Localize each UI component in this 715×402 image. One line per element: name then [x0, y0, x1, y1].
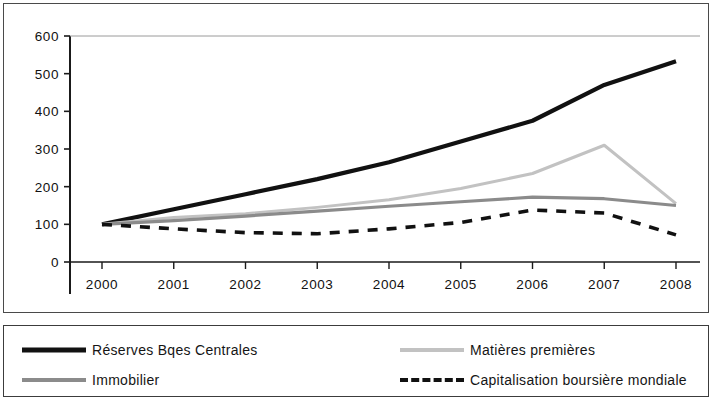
- y-tick-label: 200: [35, 180, 59, 195]
- y-tick-label: 500: [35, 67, 59, 82]
- x-tick-label: 2008: [660, 277, 692, 292]
- y-tick-label: 0: [51, 255, 59, 270]
- legend-swatch-matieres-premieres: [400, 343, 464, 357]
- legend-label-capitalisation-boursiere-mondiale: Capitalisation boursière mondiale: [470, 372, 687, 388]
- x-tick-label: 2003: [301, 277, 333, 292]
- x-tick-label: 2004: [373, 277, 405, 292]
- legend-swatch-reserves-bqes-centrales: [22, 343, 86, 357]
- legend-item-reserves-bqes-centrales: Réserves Bqes Centrales: [4, 342, 382, 358]
- chart-legend: Réserves Bqes Centrales Matières premièr…: [3, 325, 709, 397]
- line-chart: 0100200300400500600 20002001200220032004…: [0, 0, 715, 320]
- legend-item-matieres-premieres: Matières premières: [382, 342, 708, 358]
- legend-label-immobilier: Immobilier: [92, 372, 160, 388]
- legend-row-1: Réserves Bqes Centrales Matières premièr…: [4, 335, 708, 365]
- chart-series-lines: [102, 61, 676, 235]
- x-tick-label: 2006: [516, 277, 548, 292]
- legend-swatch-immobilier: [22, 373, 86, 387]
- y-tick-label: 300: [35, 142, 59, 157]
- chart-figure: 0100200300400500600 20002001200220032004…: [0, 0, 715, 402]
- legend-label-reserves-bqes-centrales: Réserves Bqes Centrales: [92, 342, 258, 358]
- x-axis-tick-labels: 200020012002200320042005200620072008: [86, 277, 692, 292]
- x-tick-label: 2001: [158, 277, 190, 292]
- scan-edge: [0, 398, 715, 402]
- legend-row-2: Immobilier Capitalisation boursière mond…: [4, 365, 708, 395]
- y-tick-label: 400: [35, 104, 59, 119]
- y-tick-label: 100: [35, 217, 59, 232]
- legend-label-matieres-premieres: Matières premières: [470, 342, 595, 358]
- legend-item-capitalisation-boursiere-mondiale: Capitalisation boursière mondiale: [382, 372, 708, 388]
- y-axis-tick-labels: 0100200300400500600: [35, 29, 59, 270]
- y-tick-label: 600: [35, 29, 59, 44]
- x-tick-label: 2007: [588, 277, 620, 292]
- series-line: [102, 210, 676, 235]
- legend-swatch-capitalisation-boursiere-mondiale: [400, 373, 464, 387]
- series-line: [102, 145, 676, 224]
- x-tick-label: 2000: [86, 277, 118, 292]
- x-tick-label: 2005: [445, 277, 477, 292]
- legend-item-immobilier: Immobilier: [4, 372, 382, 388]
- x-tick-label: 2002: [229, 277, 261, 292]
